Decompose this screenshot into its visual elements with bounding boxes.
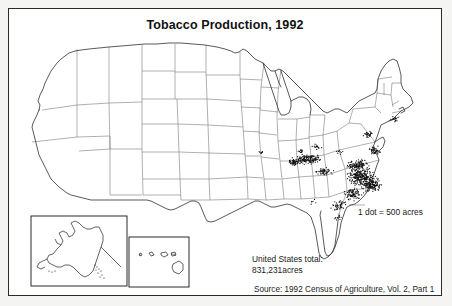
national-total-value: 831,231acres [252, 265, 323, 276]
state-boundaries [32, 44, 401, 214]
page-title: Tobacco Production, 1992 [9, 20, 441, 31]
legend-dot-value: 1 dot = 500 acres [358, 207, 423, 218]
alaska-inset-box [31, 216, 127, 286]
hawaii-inset-box [129, 237, 189, 287]
tobacco-production-dots [259, 116, 398, 220]
national-total: United States total: 831,231acres [252, 254, 323, 275]
national-total-label: United States total: [252, 254, 323, 265]
map-frame: Tobacco Production, 1992 1 dot = 500 acr… [8, 8, 442, 296]
us-dot-density-map [9, 9, 442, 296]
map-figure: Tobacco Production, 1992 1 dot = 500 acr… [0, 0, 452, 306]
source-citation: Source: 1992 Census of Agriculture, Vol.… [254, 285, 434, 296]
